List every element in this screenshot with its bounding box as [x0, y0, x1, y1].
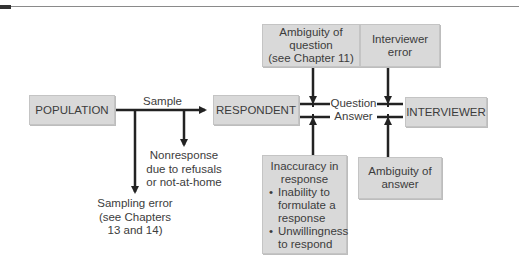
- b2-l2: to respond: [278, 238, 348, 251]
- connector-arrows: [0, 0, 519, 265]
- sampling-error-label: Sampling error (see Chapters 13 and 14): [97, 197, 173, 238]
- bullet-unwillingness: • Unwillingness to respond: [269, 225, 348, 251]
- aq-line2: question: [268, 39, 353, 52]
- b1-l1: Inability to: [278, 186, 336, 199]
- ir-title1: Inaccuracy in: [269, 160, 340, 173]
- bullet-icon: •: [269, 225, 278, 251]
- answer-label: Answer: [330, 110, 377, 124]
- population-label: POPULATION: [35, 104, 108, 117]
- bullet-inability: • Inability to formulate a response: [269, 186, 336, 225]
- ie-line2: error: [372, 46, 428, 59]
- ir-title2: response: [269, 173, 340, 186]
- b2-l1: Unwillingness: [278, 225, 348, 238]
- nonresponse-label: Nonresponse due to refusals or not-at-ho…: [146, 149, 222, 190]
- se-l3: 13 and 14): [97, 224, 173, 238]
- interviewer-error-node: Interviewer error: [360, 24, 440, 67]
- ie-line1: Interviewer: [372, 33, 428, 46]
- aa-line1: Ambiguity of: [368, 165, 431, 178]
- interviewer-node: INTERVIEWER: [405, 97, 487, 127]
- interviewer-label: INTERVIEWER: [406, 106, 486, 119]
- nr-l3: or not-at-home: [146, 176, 222, 190]
- se-l2: (see Chapters: [97, 211, 173, 225]
- b1-l3: response: [278, 212, 336, 225]
- bullet-icon: •: [269, 186, 278, 225]
- aq-line3: (see Chapter 11): [268, 52, 353, 65]
- inaccuracy-in-response-node: Inaccuracy in response • Inability to fo…: [262, 155, 347, 254]
- ambiguity-of-question-node: Ambiguity of question (see Chapter 11): [262, 24, 360, 67]
- b1-l2: formulate a: [278, 199, 336, 212]
- se-l1: Sampling error: [97, 197, 173, 211]
- aa-line2: answer: [368, 178, 431, 191]
- respondent-label: RESPONDENT: [216, 104, 296, 117]
- nr-l1: Nonresponse: [146, 149, 222, 163]
- aq-line1: Ambiguity of: [268, 26, 353, 39]
- respondent-node: RESPONDENT: [213, 95, 299, 125]
- population-node: POPULATION: [29, 95, 115, 125]
- ambiguity-of-answer-node: Ambiguity of answer: [358, 157, 442, 199]
- question-label: Question: [330, 97, 377, 111]
- sample-label: Sample: [143, 95, 182, 109]
- nr-l2: due to refusals: [146, 163, 222, 177]
